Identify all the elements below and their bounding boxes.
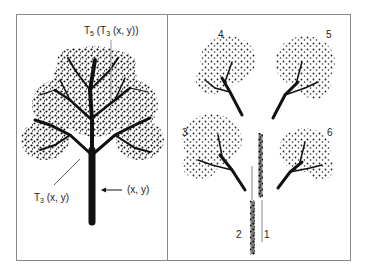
tree-4: [196, 36, 256, 115]
tree-5: [273, 36, 335, 118]
label-t5-t3: T5 (T3 (x, y)): [84, 26, 138, 37]
label-1: 1: [264, 230, 270, 240]
label-xy: (x, y): [127, 185, 149, 195]
label-6: 6: [327, 128, 333, 138]
caption-cropped: [8, 264, 358, 270]
label-2: 2: [236, 230, 242, 240]
stem-1: [258, 133, 263, 198]
label-3: 3: [182, 128, 188, 138]
label-5: 5: [326, 30, 332, 40]
stem-2: [250, 200, 255, 255]
label-t3: T3 (x, y): [34, 193, 69, 204]
label-4: 4: [218, 30, 224, 40]
tree-6: [278, 128, 334, 188]
tree-3: [182, 114, 245, 190]
